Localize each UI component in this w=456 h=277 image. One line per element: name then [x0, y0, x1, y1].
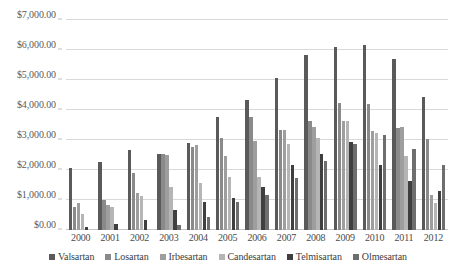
bar — [291, 165, 294, 230]
x-axis-tick-label: 2005 — [213, 231, 242, 247]
legend-swatch-icon — [287, 254, 293, 260]
x-axis-tick-label: 2004 — [184, 231, 213, 247]
y-axis-tick-label: $4,000.00 — [17, 100, 56, 110]
bar — [245, 100, 248, 231]
bar — [128, 150, 131, 230]
y-axis-tick-mark — [58, 229, 62, 230]
bar — [287, 144, 290, 230]
bar — [69, 168, 72, 230]
bar — [106, 205, 109, 230]
bar-group — [419, 20, 448, 230]
y-axis-tick-label: $1,000.00 — [17, 190, 56, 200]
y-axis-tick-label: $0.00 — [34, 220, 56, 230]
bar — [316, 138, 319, 230]
bar — [400, 127, 403, 231]
bar — [249, 117, 252, 230]
bar — [320, 154, 323, 231]
bar — [265, 195, 268, 230]
legend-item[interactable]: Candesartan — [219, 251, 276, 263]
bar — [224, 156, 227, 230]
bar — [442, 165, 445, 230]
y-axis-tick-mark — [58, 169, 62, 170]
bar — [132, 173, 135, 230]
bar-group — [242, 20, 271, 230]
bar — [334, 47, 337, 230]
bar — [98, 162, 101, 230]
bar — [203, 202, 206, 230]
bar-group — [95, 20, 124, 230]
legend-item-label: Losartan — [114, 251, 148, 263]
bar — [165, 155, 168, 230]
legend-item-label: Irbesartan — [169, 251, 208, 263]
bar — [375, 133, 378, 230]
legend-item[interactable]: Olmesartan — [353, 251, 407, 263]
bar-group — [389, 20, 418, 230]
x-axis-tick-label: 2009 — [331, 231, 360, 247]
bar — [220, 138, 223, 230]
bar — [261, 187, 264, 230]
bar — [367, 104, 370, 230]
x-axis: 2000200120022003200420052006200720082009… — [66, 231, 448, 247]
x-axis-tick-label: 2003 — [154, 231, 183, 247]
bar-group — [125, 20, 154, 230]
bar — [304, 55, 307, 230]
x-axis-tick-label: 2007 — [272, 231, 301, 247]
bar — [140, 196, 143, 230]
bar — [346, 121, 349, 230]
bar — [144, 220, 147, 230]
legend-swatch-icon — [49, 254, 55, 260]
bar — [338, 103, 341, 231]
bar — [279, 130, 282, 230]
bar — [404, 156, 407, 230]
bar-group — [154, 20, 183, 230]
bar — [392, 59, 395, 230]
y-axis-tick-mark — [58, 109, 62, 110]
bar — [353, 144, 356, 230]
bar — [191, 147, 194, 230]
bar — [236, 202, 239, 230]
bar-groups — [66, 20, 448, 230]
bar — [412, 149, 415, 230]
y-axis-tick-label: $2,000.00 — [17, 160, 56, 170]
legend-item-label: Valsartan — [58, 251, 94, 263]
legend-swatch-icon — [160, 254, 166, 260]
bar — [371, 131, 374, 230]
bar — [81, 214, 84, 230]
bar — [324, 161, 327, 230]
legend-swatch-icon — [353, 254, 359, 260]
y-axis-tick-mark — [58, 139, 62, 140]
bar — [408, 181, 411, 230]
bar — [136, 193, 139, 230]
x-axis-tick-label: 2006 — [242, 231, 271, 247]
bar — [379, 165, 382, 230]
bar-chart: $7,000.00$6,000.00$5,000.00$4,000.00$3,0… — [0, 0, 456, 277]
bar — [157, 154, 160, 230]
bar-group — [66, 20, 95, 230]
x-axis-tick-label: 2000 — [66, 231, 95, 247]
bar — [207, 217, 210, 230]
y-axis-tick-mark — [58, 199, 62, 200]
bar — [216, 117, 219, 230]
legend-item[interactable]: Irbesartan — [160, 251, 208, 263]
chart-legend: ValsartanLosartanIrbesartanCandesartanTe… — [0, 251, 456, 263]
legend-item[interactable]: Valsartan — [49, 251, 94, 263]
x-axis-tick-label: 2001 — [95, 231, 124, 247]
bar — [110, 207, 113, 230]
x-axis-tick-label: 2010 — [360, 231, 389, 247]
bar — [396, 128, 399, 230]
bar — [422, 97, 425, 230]
bar — [275, 78, 278, 230]
bar — [283, 130, 286, 230]
bar-group — [331, 20, 360, 230]
legend-item[interactable]: Losartan — [105, 251, 148, 263]
bar-group — [301, 20, 330, 230]
bar-group — [184, 20, 213, 230]
bar — [85, 227, 88, 230]
bar — [383, 135, 386, 230]
bar — [173, 210, 176, 230]
legend-item[interactable]: Telmisartan — [287, 251, 342, 263]
y-axis-tick-label: $7,000.00 — [17, 10, 56, 20]
y-axis-tick-label: $5,000.00 — [17, 70, 56, 80]
x-axis-tick-label: 2012 — [419, 231, 448, 247]
x-axis-tick-label: 2011 — [389, 231, 418, 247]
